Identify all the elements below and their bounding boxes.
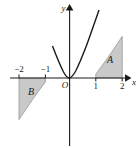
region-label-b: B [28, 86, 34, 97]
cubic-curve [53, 10, 100, 78]
x-tick-label-neg1: −1 [41, 64, 51, 74]
x-tick-label-pos2: 2 [120, 81, 125, 91]
region-label-a: A [106, 54, 114, 65]
x-tick-label-pos1: 1 [94, 81, 99, 91]
y-axis-arrow-icon [66, 4, 74, 11]
cubic-curve-figure: −2 −1 1 2 y x O A B [0, 0, 139, 148]
x-tick-label-neg2: −2 [14, 64, 24, 74]
x-axis-arrow-icon [125, 74, 132, 82]
x-axis-label: x [131, 77, 136, 87]
origin-label: O [62, 80, 69, 90]
shaded-region-b [19, 78, 45, 120]
y-axis-label: y [61, 3, 66, 13]
figure-container: −2 −1 1 2 y x O A B [0, 0, 139, 148]
